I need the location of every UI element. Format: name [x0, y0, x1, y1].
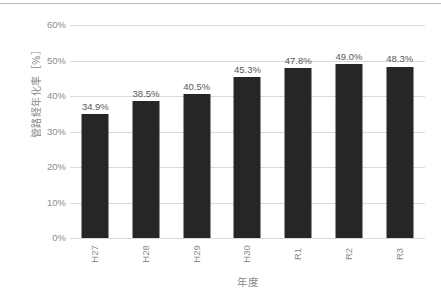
chart-screenshot: 管路経年化率［%］ 0% 10% 20% 30% 40% 50% 60% 34.… [0, 0, 441, 301]
bar[interactable] [285, 68, 312, 238]
y-axis-tick-labels: 0% 10% 20% 30% 40% 50% 60% [14, 25, 66, 238]
bar-series: 34.9% 38.5% 40.5% 45.3% 47.8% 49.0% [70, 25, 425, 238]
x-axis-title: 年度 [70, 274, 425, 289]
x-axis-tick-label: H28 [141, 245, 151, 262]
bar-value-label: 49.0% [335, 52, 362, 62]
bar-slot: 40.5% [171, 25, 222, 238]
x-axis-tick-label: H29 [192, 245, 202, 262]
bar[interactable] [133, 101, 160, 238]
x-axis-tick-slot: R2 [324, 240, 375, 272]
bar-value-label: 47.8% [285, 56, 312, 66]
bar-slot: 47.8% [273, 25, 324, 238]
y-axis-tick-label: 50% [20, 56, 66, 66]
x-axis-tick-labels: H27 H28 H29 H30 R1 R2 R3 [70, 240, 425, 272]
x-axis-tick-label: R3 [395, 248, 405, 260]
bar-slot: 34.9% [70, 25, 121, 238]
y-axis-tick-label: 30% [20, 127, 66, 137]
bar[interactable] [386, 67, 413, 239]
bar-slot: 38.5% [121, 25, 172, 238]
x-axis-line [70, 238, 425, 239]
x-axis-tick-slot: R3 [374, 240, 425, 272]
y-axis-tick-label: 40% [20, 91, 66, 101]
x-axis-tick-label: R1 [293, 248, 303, 260]
y-axis-tick-label: 10% [20, 198, 66, 208]
y-axis-tick-label: 0% [20, 233, 66, 243]
y-axis-tick-label: 60% [20, 20, 66, 30]
bar-slot: 45.3% [222, 25, 273, 238]
bar-value-label: 45.3% [234, 65, 261, 75]
x-axis-tick-label: H30 [243, 245, 253, 262]
bar[interactable] [234, 77, 261, 238]
bar-slot: 49.0% [324, 25, 375, 238]
y-axis-tick-label: 20% [20, 162, 66, 172]
x-axis-tick-label: H27 [91, 245, 101, 262]
x-axis-tick-label: R2 [344, 248, 354, 260]
bar-value-label: 38.5% [133, 89, 160, 99]
bar-value-label: 48.3% [386, 54, 413, 64]
bar[interactable] [335, 64, 362, 238]
x-axis-tick-slot: R1 [273, 240, 324, 272]
bar[interactable] [82, 114, 109, 238]
bar-chart: 管路経年化率［%］ 0% 10% 20% 30% 40% 50% 60% 34.… [0, 0, 441, 301]
x-axis-tick-slot: H28 [121, 240, 172, 272]
bar-value-label: 34.9% [82, 102, 109, 112]
x-axis-tick-slot: H27 [70, 240, 121, 272]
x-axis-tick-slot: H30 [222, 240, 273, 272]
bar-slot: 48.3% [374, 25, 425, 238]
bar[interactable] [183, 94, 210, 238]
bar-value-label: 40.5% [183, 82, 210, 92]
x-axis-tick-slot: H29 [171, 240, 222, 272]
